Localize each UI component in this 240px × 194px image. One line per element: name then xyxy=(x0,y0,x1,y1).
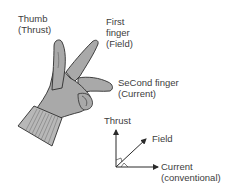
current-axis-label-line2: (conventional) xyxy=(161,172,221,183)
thumb-label: Thumb (Thrust) xyxy=(18,13,51,35)
second-finger-label: SeCond finger (Current) xyxy=(118,77,179,99)
field-axis-label: Field xyxy=(152,133,173,144)
first-finger-label-line3: (Field) xyxy=(106,38,133,49)
current-axis-label-line1: Current xyxy=(161,161,221,172)
first-finger-label: First finger (Field) xyxy=(106,16,133,49)
second-finger-label-line1: SeCond finger xyxy=(118,77,179,88)
current-axis-label: Current (conventional) xyxy=(161,161,221,183)
first-finger-label-line2: finger xyxy=(106,27,133,38)
thrust-axis-label: Thrust xyxy=(104,115,131,126)
field-axis xyxy=(116,139,146,167)
thumb-label-line2: (Thrust) xyxy=(18,24,51,35)
second-finger-label-line2: (Current) xyxy=(118,88,179,99)
thumb-label-line1: Thumb xyxy=(18,13,51,24)
first-finger-label-line1: First xyxy=(106,16,133,27)
